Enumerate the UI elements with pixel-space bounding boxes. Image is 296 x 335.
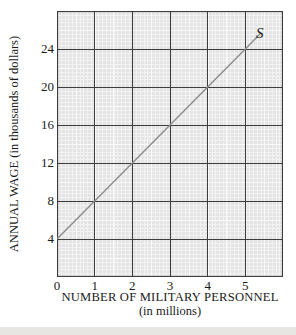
y-tick-label: 8 [22,194,54,208]
supply-curve-chart: ANNUAL WAGE (in thousands of dollars) S … [0,0,296,335]
plot-area: S [57,11,283,277]
page-bottom-strip [0,327,296,335]
x-axis-subtitle: (in millions) [45,304,295,318]
y-axis-title: ANNUAL WAGE (in thousands of dollars) [6,11,22,277]
y-tick-label: 4 [22,232,54,246]
grid-and-series-svg [57,11,283,277]
y-tick-label: 24 [22,42,54,56]
y-tick-label: 20 [22,80,54,94]
series-s-label: S [256,26,264,41]
x-axis-title: NUMBER OF MILITARY PERSONNEL [45,290,295,304]
y-tick-label: 16 [22,118,54,132]
y-tick-label: 12 [22,156,54,170]
